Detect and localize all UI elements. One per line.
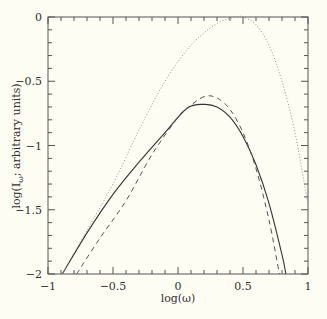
- x-tick-label: −0.5: [100, 280, 127, 293]
- y-axis-label: log(Iω; arbitrary units): [10, 83, 25, 208]
- x-tick-label: 1: [305, 280, 312, 293]
- x-axis-label: log(ω): [161, 292, 196, 305]
- x-tick-label: −1: [40, 280, 56, 293]
- chart: −1−0.500.51 0−0.5−1−1.5−2 log(ω) log(Iω;…: [0, 0, 327, 319]
- x-tick-label: 0.5: [234, 280, 252, 293]
- y-tick-label: −1: [26, 140, 42, 153]
- y-tick-label: −2: [26, 268, 42, 281]
- chart-background: [0, 0, 327, 319]
- y-tick-label: 0: [35, 11, 42, 24]
